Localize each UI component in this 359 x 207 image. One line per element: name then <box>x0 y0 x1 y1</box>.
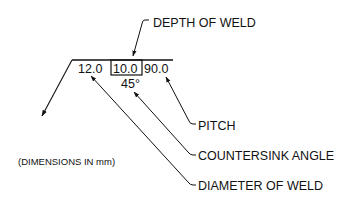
depth-value: 10.0 <box>113 62 137 76</box>
diameter-value: 12.0 <box>78 62 102 76</box>
diameter-leader <box>91 76 196 185</box>
angle-value: 45° <box>121 77 140 91</box>
depth-leader <box>133 20 149 56</box>
diameter-of-weld-label: DIAMETER OF WELD <box>198 179 323 193</box>
pitch-leader <box>166 77 196 124</box>
countersink-angle-label: COUNTERSINK ANGLE <box>198 149 334 163</box>
pitch-value: 90.0 <box>144 62 168 76</box>
countersink-leader <box>134 92 196 155</box>
depth-of-weld-label: DEPTH OF WELD <box>153 16 256 30</box>
units-note: (DIMENSIONS IN mm) <box>18 156 115 167</box>
weld-symbol-diagram: 12.0 10.0 90.0 45° DEPTH OF WELD PITCH C… <box>0 0 359 207</box>
pitch-label: PITCH <box>198 119 236 133</box>
